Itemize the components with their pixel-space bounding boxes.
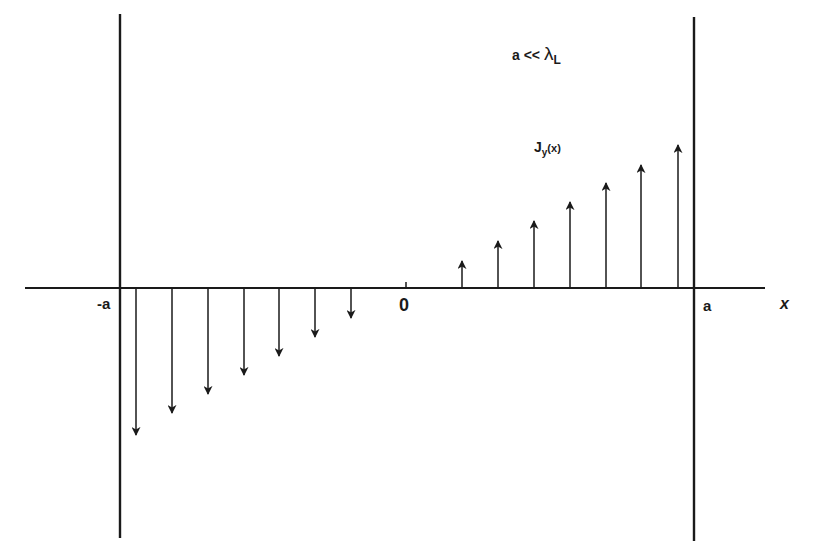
tick-label-minus-a: -a — [97, 296, 110, 311]
current-arrows — [136, 145, 678, 435]
current-symbol: J — [534, 139, 542, 155]
lambda-subscript: L — [553, 53, 560, 67]
slab-walls — [120, 14, 694, 541]
tick-label-zero: 0 — [399, 296, 409, 314]
current-density-label: Jy(x) — [534, 140, 561, 158]
lambda-symbol: λ — [544, 43, 554, 64]
tick-label-plus-a: a — [703, 298, 711, 313]
diagram-canvas — [0, 0, 815, 559]
current-argument: (x) — [547, 142, 560, 154]
condition-text: a << — [512, 47, 544, 63]
condition-label: a << λL — [512, 44, 561, 66]
x-axis-label: x — [780, 296, 789, 312]
